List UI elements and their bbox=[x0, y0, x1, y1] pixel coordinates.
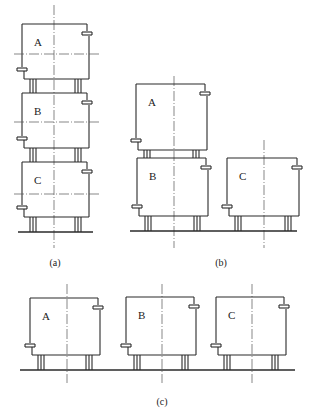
support-leg bbox=[272, 355, 278, 370]
top-right-flange bbox=[82, 101, 92, 104]
module-label: C bbox=[34, 174, 41, 186]
module-c: C bbox=[222, 158, 302, 231]
support-leg bbox=[182, 355, 188, 370]
module-label: B bbox=[34, 105, 41, 117]
support-leg bbox=[194, 216, 200, 231]
support-leg bbox=[30, 79, 36, 93]
bottom-left-flange bbox=[222, 205, 232, 208]
panel-caption: (c) bbox=[156, 396, 167, 408]
top-right-flange bbox=[200, 92, 210, 95]
top-right-flange bbox=[82, 32, 92, 35]
module-a: A bbox=[131, 84, 210, 158]
support-leg bbox=[193, 150, 199, 158]
panel-caption: (a) bbox=[49, 257, 60, 269]
top-right-flange bbox=[201, 166, 211, 169]
module-c: C bbox=[14, 162, 99, 232]
bottom-left-flange bbox=[211, 344, 221, 347]
bottom-left-flange bbox=[121, 344, 131, 347]
support-leg bbox=[75, 148, 81, 162]
module-a: A bbox=[14, 24, 99, 93]
module-c: C bbox=[211, 297, 289, 370]
module-label: A bbox=[42, 310, 50, 322]
bottom-left-flange bbox=[131, 139, 141, 142]
support-leg bbox=[30, 148, 36, 162]
support-leg bbox=[86, 355, 92, 370]
stacking-diagram: ABC(a)ABC(b)ABC(c) bbox=[0, 0, 313, 414]
bottom-left-flange bbox=[132, 205, 142, 208]
bottom-left-flange bbox=[25, 344, 35, 347]
module-label: A bbox=[34, 36, 42, 48]
module-b: B bbox=[132, 158, 211, 231]
support-leg bbox=[30, 217, 36, 232]
panel-caption: (b) bbox=[215, 257, 227, 269]
support-leg bbox=[224, 355, 230, 370]
top-right-flange bbox=[279, 305, 289, 308]
bottom-left-flange bbox=[17, 137, 27, 140]
module-label: A bbox=[148, 96, 156, 108]
bottom-left-flange bbox=[17, 68, 27, 71]
support-leg bbox=[134, 355, 140, 370]
module-label: C bbox=[228, 309, 235, 321]
top-right-flange bbox=[189, 305, 199, 308]
top-right-flange bbox=[93, 306, 103, 309]
support-leg bbox=[38, 355, 44, 370]
support-leg bbox=[144, 150, 150, 158]
module-b: B bbox=[14, 93, 99, 162]
panel-c: ABC(c) bbox=[20, 284, 295, 408]
module-b: B bbox=[121, 297, 199, 370]
module-a: A bbox=[25, 298, 103, 370]
panel-b: ABC(b) bbox=[130, 76, 302, 269]
support-leg bbox=[75, 79, 81, 93]
support-leg bbox=[75, 217, 81, 232]
support-leg bbox=[145, 216, 151, 231]
module-label: B bbox=[138, 309, 145, 321]
top-right-flange bbox=[292, 166, 302, 169]
bottom-left-flange bbox=[17, 206, 27, 209]
module-label: C bbox=[239, 170, 246, 182]
module-label: B bbox=[149, 170, 156, 182]
panel-a: ABC(a) bbox=[14, 5, 99, 269]
support-leg bbox=[235, 216, 241, 231]
support-leg bbox=[285, 216, 291, 231]
top-right-flange bbox=[82, 170, 92, 173]
